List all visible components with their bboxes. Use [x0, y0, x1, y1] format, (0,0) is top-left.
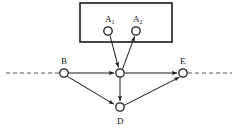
node-d[interactable]	[116, 103, 124, 111]
node-sublabel-a2: 2	[140, 19, 143, 25]
edge-a1-to-center	[110, 36, 118, 68]
node-e[interactable]	[179, 69, 187, 77]
diagram-canvas: A 1 A 2 B E D	[0, 0, 238, 135]
edge-b-to-d	[67, 76, 114, 104]
node-b[interactable]	[60, 69, 68, 77]
node-label-d: D	[117, 116, 124, 126]
node-label-b: B	[61, 56, 67, 66]
graph-svg: A 1 A 2 B E D	[0, 0, 238, 135]
node-label-e: E	[180, 56, 186, 66]
node-a2[interactable]	[132, 27, 140, 35]
node-center[interactable]	[116, 69, 124, 77]
subgraph-box	[80, 3, 172, 42]
node-a1[interactable]	[104, 27, 112, 35]
edge-d-to-e	[124, 77, 179, 105]
node-sublabel-a1: 1	[112, 19, 115, 25]
